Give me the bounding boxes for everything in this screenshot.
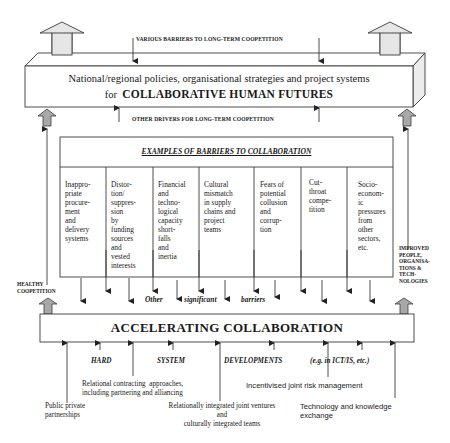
small-up-arrow-right-lower-icon bbox=[395, 298, 413, 314]
other-word: Other bbox=[145, 295, 163, 304]
joint-risk-label: Incentivised joint risk management bbox=[246, 381, 363, 390]
significant-word: significant bbox=[184, 295, 216, 304]
healthy-coopetition-label: HEALTHY COOPETITION bbox=[17, 281, 56, 294]
other-drivers-label: OTHER DRIVERS FOR LONG-TERM COOPETITION bbox=[132, 116, 274, 122]
various-barriers-label: VARIOUS BARRIERS TO LONG-TERM COOPETITIO… bbox=[136, 36, 283, 42]
barrier-column-3: Financial and techno- logical capacity s… bbox=[158, 180, 199, 261]
barrier-column-6: Cut- throat compe- tition bbox=[309, 178, 347, 214]
barrier-column-4: Cultural mismatch in supply chains and p… bbox=[204, 180, 254, 234]
barrier-bottom-arrows bbox=[81, 278, 370, 301]
top-box-line1: National/regional policies, organisation… bbox=[25, 73, 413, 84]
ppp-label: Public private partnerships bbox=[45, 402, 85, 420]
joint-ventures-label: Relationally integrated joint ventures a… bbox=[152, 402, 292, 429]
system-word: SYSTEM bbox=[157, 357, 185, 365]
developments-word: DEVELOPMENTS bbox=[224, 357, 282, 365]
ict-example-word: (e.g. in ICT/IS, etc.) bbox=[310, 357, 369, 365]
small-up-arrow-left-icon bbox=[38, 109, 56, 126]
hard-word: HARD bbox=[91, 357, 111, 365]
barrier-column-7: Socio- econom- ic pressures from other s… bbox=[358, 180, 393, 252]
relational-contracting-label: Relational contracting approaches, inclu… bbox=[82, 380, 183, 398]
improved-people-label: IMPROVED PEOPLE, ORGANISA- TIONS & TECH-… bbox=[399, 245, 430, 285]
barrier-column-1: Inappro- priate procure- ment and delive… bbox=[65, 180, 105, 243]
top-box-line2-prefix: for bbox=[105, 89, 117, 100]
barrier-column-5: Fears of potential collusion and corrup-… bbox=[260, 180, 301, 234]
tech-exchange-label: Technology and knowledge exchange bbox=[300, 402, 392, 420]
top-box-line2: for COLLABORATIVE HUMAN FUTURES bbox=[25, 88, 413, 100]
barriers-word: barriers bbox=[241, 295, 265, 304]
barrier-column-2: Distor- tion/ suppres- sion by funding s… bbox=[111, 180, 153, 270]
collaborative-human-futures-title: COLLABORATIVE HUMAN FUTURES bbox=[122, 88, 333, 100]
small-up-arrow-left-lower-icon bbox=[39, 298, 57, 314]
barriers-box-title: EXAMPLES OF BARRIERS TO COLLABORATION bbox=[60, 147, 393, 156]
accelerating-collaboration-title: ACCELERATING COLLABORATION bbox=[40, 320, 414, 336]
small-up-arrow-right-icon bbox=[398, 109, 416, 126]
